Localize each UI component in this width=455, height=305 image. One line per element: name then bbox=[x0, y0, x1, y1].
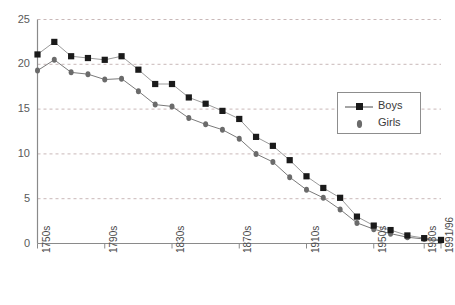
data-point-marker bbox=[320, 185, 326, 191]
y-tick-label: 20 bbox=[8, 58, 30, 69]
series-girls bbox=[35, 57, 444, 244]
data-point-marker bbox=[254, 151, 259, 157]
x-tick-label: 1750s bbox=[42, 225, 52, 252]
data-point-marker bbox=[203, 101, 209, 107]
x-tick-label: 1870s bbox=[243, 225, 253, 252]
x-tick-label: 1991/96 bbox=[445, 216, 455, 252]
data-point-marker bbox=[85, 55, 91, 61]
y-tick-label: 10 bbox=[8, 148, 30, 159]
series-line bbox=[38, 60, 442, 241]
x-tick-label: 1910s bbox=[311, 225, 321, 252]
data-point-marker bbox=[85, 71, 90, 77]
data-point-marker bbox=[186, 115, 191, 121]
data-point-marker bbox=[371, 222, 377, 228]
data-point-marker bbox=[387, 227, 393, 233]
x-tick-label: 1830s bbox=[176, 225, 186, 252]
data-point-marker bbox=[34, 51, 40, 57]
data-point-marker bbox=[337, 195, 343, 201]
data-point-marker bbox=[35, 68, 40, 74]
data-point-marker bbox=[52, 57, 57, 63]
data-point-marker bbox=[152, 81, 158, 87]
data-point-marker bbox=[236, 116, 242, 122]
x-tick-label: 1950s bbox=[378, 225, 388, 252]
data-point-marker bbox=[270, 143, 276, 149]
data-point-marker bbox=[237, 136, 242, 142]
data-point-marker bbox=[118, 53, 124, 59]
legend-item-boys: Boys bbox=[344, 98, 402, 112]
x-tick-label: 1980s bbox=[428, 225, 438, 252]
data-point-marker bbox=[169, 81, 175, 87]
data-point-marker bbox=[270, 159, 275, 165]
legend-marker-square-icon bbox=[344, 99, 374, 111]
data-point-marker bbox=[287, 157, 293, 163]
data-point-marker bbox=[287, 174, 292, 180]
y-tick-label: 0 bbox=[8, 238, 30, 249]
data-point-marker bbox=[219, 108, 225, 114]
data-point-marker bbox=[170, 103, 175, 109]
legend-label-girls: Girls bbox=[378, 116, 401, 128]
data-point-marker bbox=[51, 39, 57, 45]
data-point-marker bbox=[69, 69, 74, 75]
y-tick-label: 15 bbox=[8, 103, 30, 114]
data-point-marker bbox=[186, 94, 192, 100]
data-point-marker bbox=[119, 76, 124, 82]
chart-legend: Boys Girls bbox=[337, 92, 421, 134]
data-point-marker bbox=[153, 102, 158, 108]
y-tick-label: 5 bbox=[8, 193, 30, 204]
data-point-marker bbox=[338, 206, 343, 212]
x-tick-label: 1790s bbox=[109, 225, 119, 252]
data-point-marker bbox=[68, 53, 74, 59]
data-point-marker bbox=[203, 121, 208, 127]
data-point-marker bbox=[136, 88, 141, 94]
data-point-marker bbox=[304, 187, 309, 193]
data-point-marker bbox=[220, 127, 225, 133]
legend-label-boys: Boys bbox=[378, 99, 402, 111]
data-point-marker bbox=[102, 77, 107, 83]
data-point-marker bbox=[135, 67, 141, 73]
legend-item-girls: Girls bbox=[344, 115, 401, 129]
y-tick-label: 25 bbox=[8, 14, 30, 25]
data-point-marker bbox=[404, 232, 410, 238]
data-point-marker bbox=[354, 214, 360, 220]
data-point-marker bbox=[321, 195, 326, 201]
data-point-marker bbox=[303, 173, 309, 179]
data-point-marker bbox=[102, 57, 108, 63]
legend-marker-circle-icon bbox=[344, 116, 374, 128]
data-point-marker bbox=[354, 220, 359, 226]
data-point-marker bbox=[253, 134, 259, 140]
